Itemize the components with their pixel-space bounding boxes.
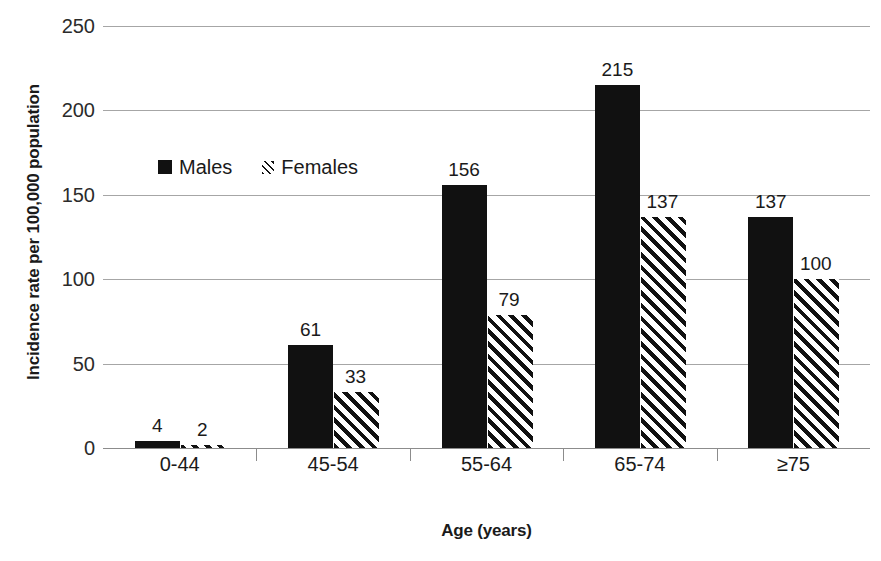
bar-males-45-54 [288, 345, 333, 448]
y-tick-label-100: 100 [35, 268, 95, 291]
hatched-square-swatch-icon [262, 161, 274, 174]
legend-item-females: Females [262, 157, 358, 177]
bar-males-65-74 [595, 85, 640, 448]
legend-label-males: Males [179, 157, 232, 177]
x-tick-1 [256, 448, 257, 461]
y-tick-label-0: 0 [35, 437, 95, 460]
bar-value-males-≥75: 137 [755, 191, 787, 213]
x-category-label-55-64: 55-64 [461, 453, 512, 476]
y-axis-title: Incidence rate per 100,000 population [24, 22, 44, 442]
legend-label-females: Females [281, 157, 358, 177]
solid-square-swatch-icon [158, 160, 172, 174]
y-tick-label-200: 200 [35, 99, 95, 122]
y-tick-label-250: 250 [35, 15, 95, 38]
x-tick-2 [410, 448, 411, 461]
bar-value-males-65-74: 215 [602, 59, 634, 81]
bar-females-45-54 [333, 392, 379, 448]
x-category-label-≥75: ≥75 [777, 453, 810, 476]
bar-females-65-74 [640, 217, 686, 448]
x-tick-3 [563, 448, 564, 461]
bar-value-females-55-64: 79 [498, 289, 519, 311]
y-tick-label-150: 150 [35, 183, 95, 206]
x-category-label-0-44: 0-44 [160, 453, 200, 476]
bar-value-males-45-54: 61 [300, 319, 321, 341]
chart-legend: Males Females [158, 157, 358, 177]
gridline-0 [103, 448, 870, 449]
bar-value-males-0-44: 4 [152, 415, 163, 437]
bar-value-females-≥75: 100 [800, 253, 832, 275]
bar-males-55-64 [442, 185, 487, 448]
x-category-label-65-74: 65-74 [614, 453, 665, 476]
bar-females-0-44 [180, 445, 226, 448]
bar-males-0-44 [135, 441, 180, 448]
bar-value-females-0-44: 2 [197, 419, 208, 441]
x-axis-title: Age (years) [103, 521, 870, 541]
legend-item-males: Males [158, 157, 232, 177]
bar-females-55-64 [487, 315, 533, 448]
bar-value-females-65-74: 137 [647, 191, 679, 213]
incidence-rate-bar-chart: Incidence rate per 100,000 population 05… [0, 0, 881, 561]
gridline-250 [103, 26, 870, 27]
bar-value-females-45-54: 33 [345, 366, 366, 388]
x-category-label-45-54: 45-54 [308, 453, 359, 476]
plot-area: 42613315679215137137100 [103, 26, 870, 448]
y-tick-label-50: 50 [35, 352, 95, 375]
bar-value-males-55-64: 156 [448, 159, 480, 181]
x-tick-4 [717, 448, 718, 461]
bar-males-≥75 [748, 217, 793, 448]
bar-females-≥75 [793, 279, 839, 448]
gridline-200 [103, 110, 870, 111]
